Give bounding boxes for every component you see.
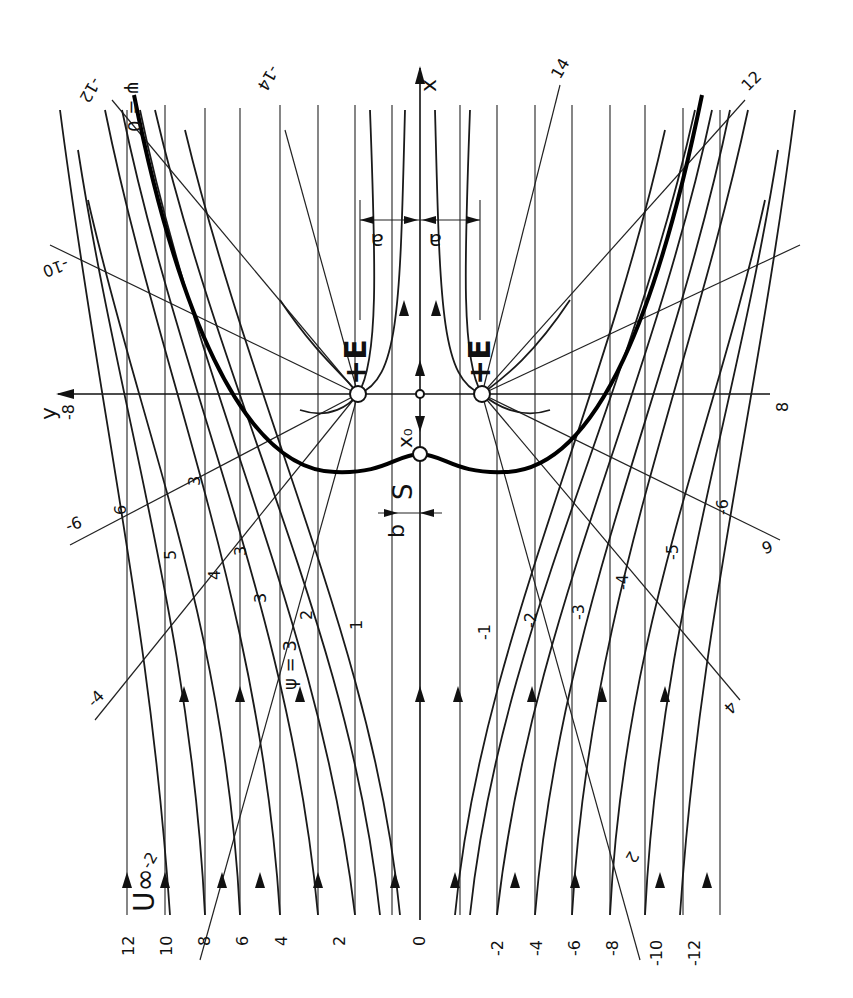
ray-label: -6 bbox=[63, 512, 84, 535]
streamline-label: -5 bbox=[663, 544, 682, 560]
y-axis: y -8 8 bbox=[36, 389, 792, 420]
free-stream-label: U∞ bbox=[128, 868, 161, 912]
streamline-value-labels: 1 2 3 3 3 4 5 6 -1 -2 -3 -4 -5 -6 bbox=[111, 476, 732, 640]
source-right-node bbox=[474, 386, 490, 402]
y-axis-end-right: 8 bbox=[773, 402, 792, 412]
scale-tick: -2 bbox=[488, 940, 507, 956]
ray-label: 12 bbox=[737, 67, 765, 95]
ray-label: -4 bbox=[83, 686, 108, 711]
scale-tick: 12 bbox=[119, 936, 138, 956]
spacing-a-right: a bbox=[429, 229, 442, 254]
streamline-label: 4 bbox=[205, 570, 224, 580]
source-right-label: +E bbox=[462, 339, 497, 385]
psi-zero-label: ψ = 0 bbox=[124, 82, 145, 132]
streamline-label: 3 bbox=[251, 593, 270, 603]
streamline-label: 3 bbox=[185, 476, 204, 486]
scale-tick: 6 bbox=[233, 936, 252, 946]
ray-label: 4 bbox=[720, 697, 741, 718]
streamline-label: 5 bbox=[161, 550, 180, 560]
width-b-label: b bbox=[384, 524, 409, 538]
scale-tick: 0 bbox=[410, 936, 429, 946]
source-left-label: +E bbox=[338, 339, 373, 385]
streamline-label: -4 bbox=[613, 574, 632, 590]
scale-tick: -6 bbox=[565, 940, 584, 956]
y-axis-label: y bbox=[36, 407, 61, 420]
width-dimension: b bbox=[378, 509, 442, 538]
scale-tick: -12 bbox=[685, 940, 704, 966]
ray-label: 2 bbox=[621, 848, 643, 866]
ray-label: 14 bbox=[547, 55, 574, 82]
x-axis-label: x bbox=[416, 79, 441, 92]
scale-tick: 8 bbox=[195, 936, 214, 946]
streamline-label: -2 bbox=[521, 612, 540, 628]
streamline-label: 2 bbox=[297, 610, 316, 620]
psi-three-label: ψ = 3 bbox=[279, 640, 300, 690]
streamline-label: 3 bbox=[231, 546, 250, 556]
y-axis-end-left: -8 bbox=[59, 404, 78, 420]
ray-label: -10 bbox=[40, 254, 71, 281]
flow-arrows bbox=[122, 300, 712, 888]
bottom-scale: 12 10 8 6 4 2 0 -2 -4 -6 -8 -10 -12 bbox=[119, 936, 704, 966]
source-left-node bbox=[350, 386, 366, 402]
scale-tick: 4 bbox=[272, 936, 291, 946]
scale-tick: -4 bbox=[527, 940, 546, 956]
ray-label: -12 bbox=[75, 74, 105, 106]
ray-label: 6 bbox=[759, 536, 775, 557]
streamline-label: 6 bbox=[111, 505, 130, 515]
streamline-label: -1 bbox=[475, 624, 494, 640]
psi-zero-streamline bbox=[134, 95, 702, 472]
scale-tick: 10 bbox=[157, 936, 176, 956]
streamlines-right bbox=[435, 110, 795, 915]
scale-tick: -8 bbox=[603, 940, 622, 956]
streamline-label: -3 bbox=[569, 604, 588, 620]
ray-label: -14 bbox=[253, 62, 283, 94]
stagnation-distance-label: x₀ bbox=[393, 428, 417, 448]
stagnation-node bbox=[413, 447, 427, 461]
spacing-a-left: a bbox=[371, 229, 384, 254]
streamline-label: 1 bbox=[347, 620, 366, 630]
streamline-label: -6 bbox=[713, 499, 732, 515]
scale-tick: -10 bbox=[647, 940, 666, 966]
scale-tick: 2 bbox=[330, 936, 349, 946]
streamline-diagram: x y -8 8 bbox=[0, 0, 853, 998]
stagnation-label: S bbox=[388, 483, 418, 500]
origin-node bbox=[416, 390, 424, 398]
